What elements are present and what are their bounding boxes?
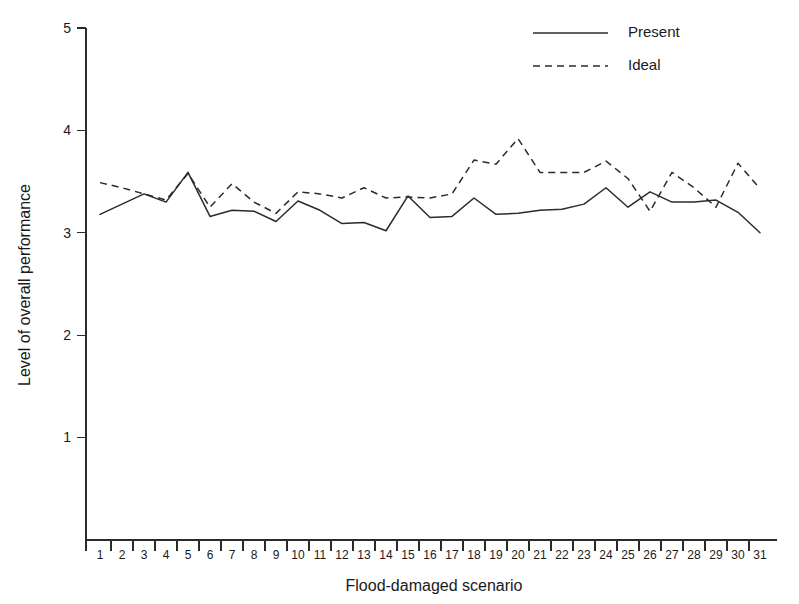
x-axis-tick-label: 16	[423, 548, 437, 562]
data-series-group	[100, 139, 760, 233]
y-axis-tick-label: 2	[63, 327, 71, 343]
x-axis-tick-label: 20	[511, 548, 525, 562]
series-line-present	[100, 172, 760, 232]
y-axis-tick-label: 5	[63, 20, 71, 36]
x-axis-tick-label: 29	[709, 548, 723, 562]
x-axis-tick-label: 10	[291, 548, 305, 562]
x-axis-tick-label: 2	[119, 548, 126, 562]
x-axis-tick-label: 30	[731, 548, 745, 562]
x-axis-tick-label: 21	[533, 548, 547, 562]
chart-legend: PresentIdeal	[533, 23, 681, 73]
y-axis-tick-label: 1	[63, 429, 71, 445]
x-axis-tick-label: 8	[251, 548, 258, 562]
y-axis-tick-label: 3	[63, 225, 71, 241]
x-axis-tick-label: 26	[643, 548, 657, 562]
x-axis-tick-label: 18	[467, 548, 481, 562]
x-axis-tick-label: 17	[445, 548, 459, 562]
x-axis-tick-label: 22	[555, 548, 569, 562]
legend-label-present: Present	[628, 23, 681, 40]
series-line-ideal	[100, 139, 760, 214]
chart-figure: 12345 1234567891011121314151617181920212…	[0, 0, 799, 604]
x-axis-tick-label: 12	[335, 548, 349, 562]
y-axis-title: Level of overall performance	[16, 184, 33, 386]
x-axis-tick-label: 27	[665, 548, 679, 562]
y-axis-tick-label: 4	[63, 122, 71, 138]
x-axis-tick-label: 3	[141, 548, 148, 562]
x-axis-tick-label: 23	[577, 548, 591, 562]
x-axis-tick-label: 15	[401, 548, 415, 562]
x-axis-tick-label: 7	[229, 548, 236, 562]
x-axis-tick-label: 28	[687, 548, 701, 562]
x-axis-tick-label: 4	[163, 548, 170, 562]
legend-label-ideal: Ideal	[628, 56, 661, 73]
x-axis-tick-label: 25	[621, 548, 635, 562]
line-chart-plot: 12345 1234567891011121314151617181920212…	[0, 0, 799, 604]
x-axis-tick-label: 6	[207, 548, 214, 562]
x-axis-tick-label: 31	[753, 548, 767, 562]
x-axis-tick-label: 19	[489, 548, 503, 562]
x-axis-title: Flood-damaged scenario	[346, 577, 523, 594]
x-axis-tick-label: 11	[314, 548, 327, 562]
y-axis: 12345	[63, 20, 86, 540]
x-axis: 1234567891011121314151617181920212223242…	[86, 540, 777, 562]
x-axis-tick-label: 9	[273, 548, 280, 562]
x-axis-tick-label: 14	[379, 548, 393, 562]
x-axis-tick-label: 1	[97, 548, 104, 562]
x-axis-tick-label: 5	[185, 548, 192, 562]
x-axis-tick-label: 24	[599, 548, 613, 562]
x-axis-tick-label: 13	[357, 548, 371, 562]
